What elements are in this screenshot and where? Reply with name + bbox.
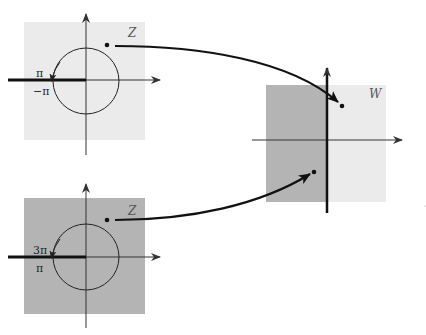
plane-label: Z: [127, 26, 137, 40]
z-point-bottom: [105, 218, 110, 223]
label-below-cut: −π: [33, 85, 49, 98]
w-point-light: [340, 104, 345, 109]
speck: [424, 205, 425, 206]
label-below-cut: π: [36, 262, 43, 275]
z-plane-top: π −π Z: [8, 14, 160, 155]
z-plane-bottom: 3π π Z: [8, 184, 160, 328]
plane-label: Z: [127, 204, 137, 218]
plane-label: W: [369, 87, 383, 101]
label-above-cut: 3π: [33, 244, 47, 257]
mapping-diagram: π −π Z 3π π Z W: [0, 0, 426, 335]
w-point-dark: [312, 170, 317, 175]
label-above-cut: π: [36, 67, 43, 80]
z-point-top: [105, 43, 110, 48]
w-plane-right-half: [327, 85, 386, 202]
w-plane-left-half: [266, 85, 327, 202]
